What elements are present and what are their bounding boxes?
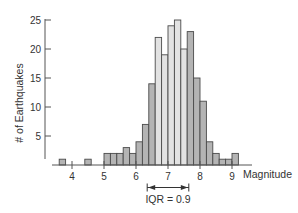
histogram-bar xyxy=(155,37,161,165)
histogram-bar xyxy=(206,142,212,165)
x-tick-label: 7 xyxy=(165,171,171,182)
x-tick-label: 6 xyxy=(133,171,139,182)
histogram-bar xyxy=(200,101,206,165)
histogram-bar xyxy=(104,153,110,165)
histogram-bar xyxy=(149,84,155,165)
x-tick-label: 5 xyxy=(101,171,107,182)
arrow-left-icon xyxy=(148,185,155,190)
x-axis-label: Magnitude xyxy=(243,168,292,180)
histogram-bar xyxy=(194,78,200,165)
histogram-bar xyxy=(123,148,129,165)
histogram-chart: 510152025 456789 # of Earthquakes Magnit… xyxy=(0,0,298,213)
histogram-bar xyxy=(59,159,65,165)
histogram-bar xyxy=(174,20,180,165)
x-tick-label: 8 xyxy=(197,171,203,182)
histogram-bar xyxy=(117,153,123,165)
histogram-bar xyxy=(219,159,225,165)
y-tick-label: 10 xyxy=(30,102,42,113)
histogram-bar xyxy=(187,32,193,165)
histogram-bar xyxy=(168,26,174,165)
y-tick-label: 20 xyxy=(30,44,42,55)
histogram-bar xyxy=(142,124,148,165)
histogram-bar xyxy=(110,153,116,165)
histogram-bar xyxy=(226,159,232,165)
y-tick-label: 25 xyxy=(30,15,42,26)
histogram-bar xyxy=(213,153,219,165)
iqr-annotation: IQR = 0.9 xyxy=(145,184,190,206)
y-ticks: 510152025 xyxy=(30,15,51,142)
bars-group xyxy=(59,20,238,165)
y-axis-label: # of Earthquakes xyxy=(13,63,25,142)
histogram-svg: 510152025 456789 # of Earthquakes Magnit… xyxy=(0,0,298,213)
histogram-bar xyxy=(85,159,91,165)
iqr-label: IQR = 0.9 xyxy=(145,193,190,205)
x-tick-label: 9 xyxy=(229,171,235,182)
y-tick-label: 5 xyxy=(35,131,41,142)
arrow-right-icon xyxy=(181,185,188,190)
histogram-bar xyxy=(232,153,238,165)
y-tick-label: 15 xyxy=(30,73,42,84)
histogram-bar xyxy=(136,142,142,165)
histogram-bar xyxy=(181,49,187,165)
histogram-bar xyxy=(130,153,136,165)
x-tick-label: 4 xyxy=(69,171,75,182)
histogram-bar xyxy=(162,55,168,165)
